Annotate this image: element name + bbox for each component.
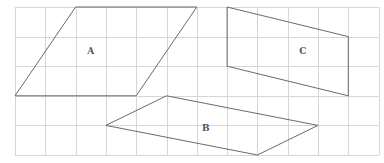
parallelogram-a (15, 7, 197, 96)
shape-a: A (15, 7, 197, 96)
shape-label-a: A (86, 46, 95, 56)
parallelogram-c (227, 7, 348, 96)
shape-c: C (227, 7, 348, 96)
shape-label-c: C (299, 46, 306, 56)
grid-diagram: A B C (0, 0, 384, 163)
grid-lines (15, 7, 380, 156)
shape-label-b: B (202, 123, 210, 133)
